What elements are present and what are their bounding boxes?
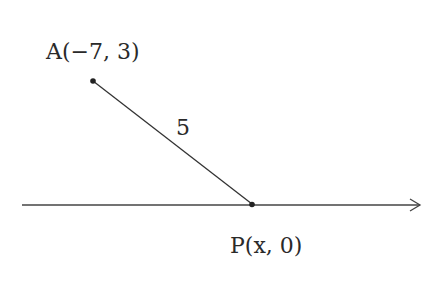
- diagram: A(−7, 3) 5 P(x, 0): [0, 0, 423, 295]
- point-p: [249, 202, 255, 208]
- point-a: [90, 78, 96, 84]
- point-a-label: A(−7, 3): [46, 41, 139, 63]
- segment-ap: [93, 81, 252, 204]
- segment-length-label: 5: [176, 117, 190, 139]
- point-p-label: P(x, 0): [230, 235, 302, 257]
